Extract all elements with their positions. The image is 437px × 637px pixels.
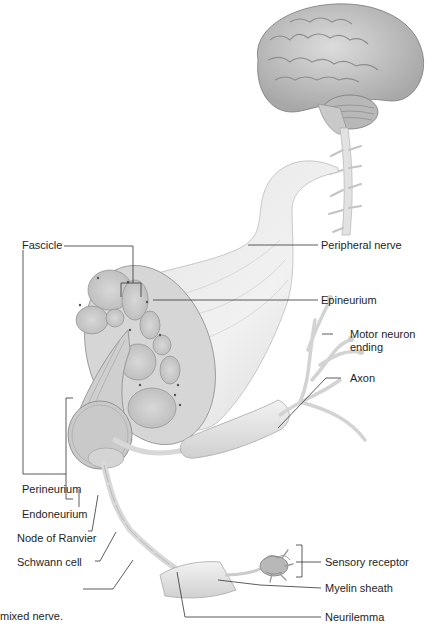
brain <box>257 4 423 134</box>
label-myelin-sheath: Myelin sheath <box>325 582 393 595</box>
label-schwann-cell: Schwann cell <box>17 556 82 569</box>
label-node-of-ranvier: Node of Ranvier <box>17 532 97 545</box>
sensory-neuron-axon <box>104 465 262 598</box>
label-sensory-receptor: Sensory receptor <box>325 556 409 569</box>
label-axon: Axon <box>350 372 375 385</box>
label-motor-neuron-ending-line1: Motor neuron <box>350 328 415 341</box>
label-fascicle: Fascicle <box>22 239 62 252</box>
spinal-cord <box>329 128 361 235</box>
label-perineurium: Perineurium <box>22 483 81 496</box>
label-peripheral-nerve: Peripheral nerve <box>321 239 402 252</box>
label-endoneurium: Endoneurium <box>22 508 87 521</box>
label-epineurium: Epineurium <box>321 294 377 307</box>
sensory-receptor <box>260 550 293 582</box>
label-motor-neuron-ending: Motor neuron ending <box>350 328 415 354</box>
label-motor-neuron-ending-line2: ending <box>350 341 415 354</box>
figure-caption: mixed nerve. <box>0 610 63 623</box>
label-neurilemma: Neurilemma <box>325 611 384 624</box>
